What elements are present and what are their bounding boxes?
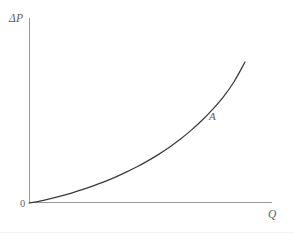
x-axis-label: Q <box>268 209 277 221</box>
y-axis-label: ΔP <box>9 13 23 25</box>
figure-canvas: ΔP Q 0 A <box>0 0 294 237</box>
curve-label-a: A <box>209 111 216 122</box>
origin-label: 0 <box>20 199 25 210</box>
curve-a-path <box>29 62 245 203</box>
page-edge-divider <box>0 232 294 233</box>
plot-area <box>0 0 294 237</box>
